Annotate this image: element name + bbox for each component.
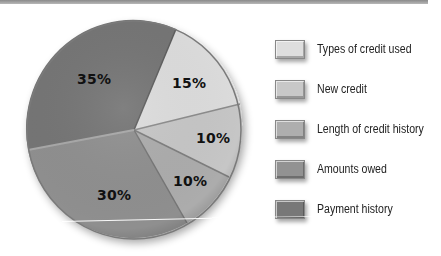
legend-swatch: [275, 80, 305, 99]
legend-label: Amounts owed: [317, 162, 387, 176]
legend-label: Types of credit used: [317, 42, 412, 56]
slice-label-types-of-credit-used: 15%: [172, 75, 206, 91]
legend-label: New credit: [317, 82, 367, 96]
legend-item-length-of-credit-history: Length of credit history: [275, 118, 441, 140]
slice-label-payment-history: 35%: [77, 71, 111, 87]
legend-item-new-credit: New credit: [275, 78, 441, 100]
legend-swatch: [275, 160, 305, 179]
slice-label-amounts-owed: 30%: [97, 187, 131, 203]
legend-item-types-of-credit-used: Types of credit used: [275, 38, 441, 60]
slice-label-length-of-credit-history: 10%: [173, 173, 207, 189]
legend-label: Length of credit history: [317, 122, 424, 136]
slice-label-new-credit: 10%: [196, 130, 230, 146]
legend-label: Payment history: [317, 202, 393, 216]
legend-item-amounts-owed: Amounts owed: [275, 158, 441, 180]
legend-swatch: [275, 40, 305, 59]
legend-swatch: [275, 120, 305, 139]
